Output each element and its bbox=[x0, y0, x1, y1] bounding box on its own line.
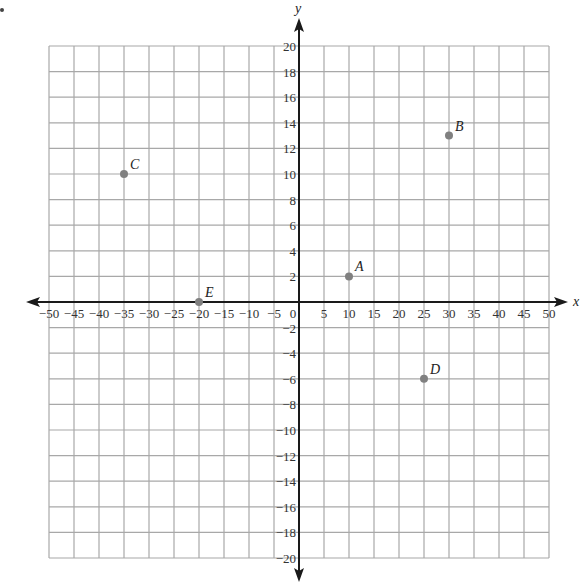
x-tick-label: −5 bbox=[267, 306, 281, 321]
y-tick-label: −14 bbox=[276, 474, 297, 489]
y-tick-label: 12 bbox=[283, 141, 296, 156]
x-tick-labels: −50−45−40−35−30−25−20−15−10−505101520253… bbox=[39, 306, 556, 321]
point-label: E bbox=[204, 285, 214, 300]
coordinate-plane: xy −50−45−40−35−30−25−20−15−10−505101520… bbox=[0, 0, 582, 586]
y-tick-label: −4 bbox=[282, 346, 296, 361]
x-tick-label: −50 bbox=[39, 306, 59, 321]
point-marker bbox=[420, 375, 428, 383]
point-label: D bbox=[429, 362, 440, 377]
x-tick-label: −40 bbox=[89, 306, 109, 321]
axes: xy bbox=[26, 1, 580, 582]
y-tick-label: −18 bbox=[276, 525, 296, 540]
x-tick-label: 45 bbox=[518, 306, 531, 321]
y-tick-label: 16 bbox=[283, 90, 297, 105]
x-tick-label: −15 bbox=[214, 306, 234, 321]
y-tick-label: −10 bbox=[276, 423, 296, 438]
point-marker bbox=[345, 272, 353, 280]
x-tick-label: 50 bbox=[543, 306, 556, 321]
x-tick-label: −45 bbox=[64, 306, 84, 321]
x-tick-label: −30 bbox=[139, 306, 159, 321]
point-marker bbox=[195, 298, 203, 306]
y-tick-label: 2 bbox=[290, 269, 297, 284]
point-d: D bbox=[420, 362, 440, 383]
y-tick-label: −16 bbox=[276, 500, 297, 515]
y-tick-label: 8 bbox=[290, 193, 297, 208]
point-marker bbox=[445, 132, 453, 140]
x-tick-label: 20 bbox=[393, 306, 406, 321]
point-label: C bbox=[130, 157, 140, 172]
x-tick-label: 15 bbox=[368, 306, 381, 321]
corner-mark bbox=[0, 8, 4, 12]
point-label: B bbox=[455, 119, 464, 134]
y-tick-label: −20 bbox=[276, 551, 296, 566]
point-label: A bbox=[354, 259, 364, 274]
x-tick-label: 35 bbox=[468, 306, 481, 321]
y-tick-label: −8 bbox=[282, 397, 296, 412]
x-axis-label: x bbox=[572, 294, 580, 309]
x-tick-label: 25 bbox=[418, 306, 431, 321]
x-tick-label: −35 bbox=[114, 306, 134, 321]
y-axis-label: y bbox=[293, 1, 302, 16]
point-c: C bbox=[120, 157, 140, 178]
x-tick-label: 5 bbox=[321, 306, 328, 321]
x-tick-label: 40 bbox=[493, 306, 506, 321]
x-tick-label: −25 bbox=[164, 306, 184, 321]
y-tick-label: 6 bbox=[290, 218, 297, 233]
point-marker bbox=[120, 170, 128, 178]
x-tick-label: −10 bbox=[239, 306, 259, 321]
y-tick-label: −2 bbox=[282, 321, 296, 336]
x-tick-label: 0 bbox=[290, 306, 297, 321]
x-tick-label: 10 bbox=[343, 306, 356, 321]
y-tick-label: −6 bbox=[282, 372, 296, 387]
y-tick-label: 20 bbox=[283, 39, 296, 54]
y-tick-label: 10 bbox=[283, 167, 296, 182]
y-tick-label: −12 bbox=[276, 449, 296, 464]
y-tick-label: 18 bbox=[283, 65, 296, 80]
y-tick-label: 4 bbox=[290, 244, 297, 259]
point-a: A bbox=[345, 259, 364, 280]
x-tick-label: 30 bbox=[443, 306, 456, 321]
y-tick-label: 14 bbox=[283, 116, 297, 131]
x-tick-label: −20 bbox=[189, 306, 209, 321]
point-b: B bbox=[445, 119, 464, 140]
